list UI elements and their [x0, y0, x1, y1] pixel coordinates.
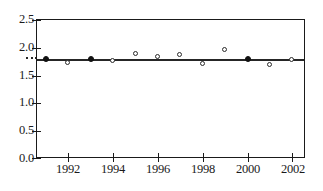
data-point [43, 56, 49, 62]
data-point [110, 58, 115, 63]
x-axis-tick-label: 1992 [43, 163, 93, 176]
y-axis-tick-label: 1.0 [2, 96, 34, 109]
x-axis-tick [68, 157, 69, 162]
y-axis-tick [37, 158, 41, 159]
y-axis-tick-label: 2.0 [2, 41, 34, 54]
y-axis-tick [37, 76, 41, 77]
x-axis-tick-label: 1994 [88, 163, 138, 176]
plot-area [36, 19, 305, 158]
x-axis-tick-label: 2000 [223, 163, 273, 176]
x-axis-tick [113, 157, 114, 162]
chart-figure: 2.5 2.0 1.5 1.0 0.5 0.0 1992 1994 1996 1… [0, 0, 323, 191]
x-axis-tick-label: 1998 [178, 163, 228, 176]
y-axis-tick [37, 131, 41, 132]
y-axis-tick-label: 0.0 [2, 152, 34, 165]
x-axis-tick [203, 153, 204, 157]
data-point [65, 60, 70, 65]
data-point [133, 51, 138, 56]
x-axis-tick [158, 157, 159, 162]
x-axis-tick [292, 153, 293, 157]
x-axis-tick-label: 1996 [133, 163, 183, 176]
y-axis-tick [37, 48, 41, 49]
data-point [222, 47, 227, 52]
y-axis-tick-label: 1.5 [2, 69, 34, 82]
data-point [200, 61, 205, 66]
x-axis-tick [113, 153, 114, 157]
data-point [177, 52, 182, 57]
x-axis-tick [248, 157, 249, 162]
y-axis-tick-label: 2.5 [2, 13, 34, 26]
trend-line [37, 59, 304, 61]
y-axis-tick [37, 20, 41, 21]
x-axis-tick [292, 157, 293, 162]
y-axis-tick-label: 0.5 [2, 124, 34, 137]
y-axis-tick [37, 103, 41, 104]
x-axis-tick [68, 153, 69, 157]
x-axis-tick-label: 2002 [268, 163, 318, 176]
data-point [267, 62, 272, 67]
data-point [245, 56, 251, 62]
data-point [155, 54, 160, 59]
data-point [289, 57, 294, 62]
x-axis-tick [158, 153, 159, 157]
x-axis-tick [248, 153, 249, 157]
x-axis-tick [203, 157, 204, 162]
data-point [88, 56, 94, 62]
